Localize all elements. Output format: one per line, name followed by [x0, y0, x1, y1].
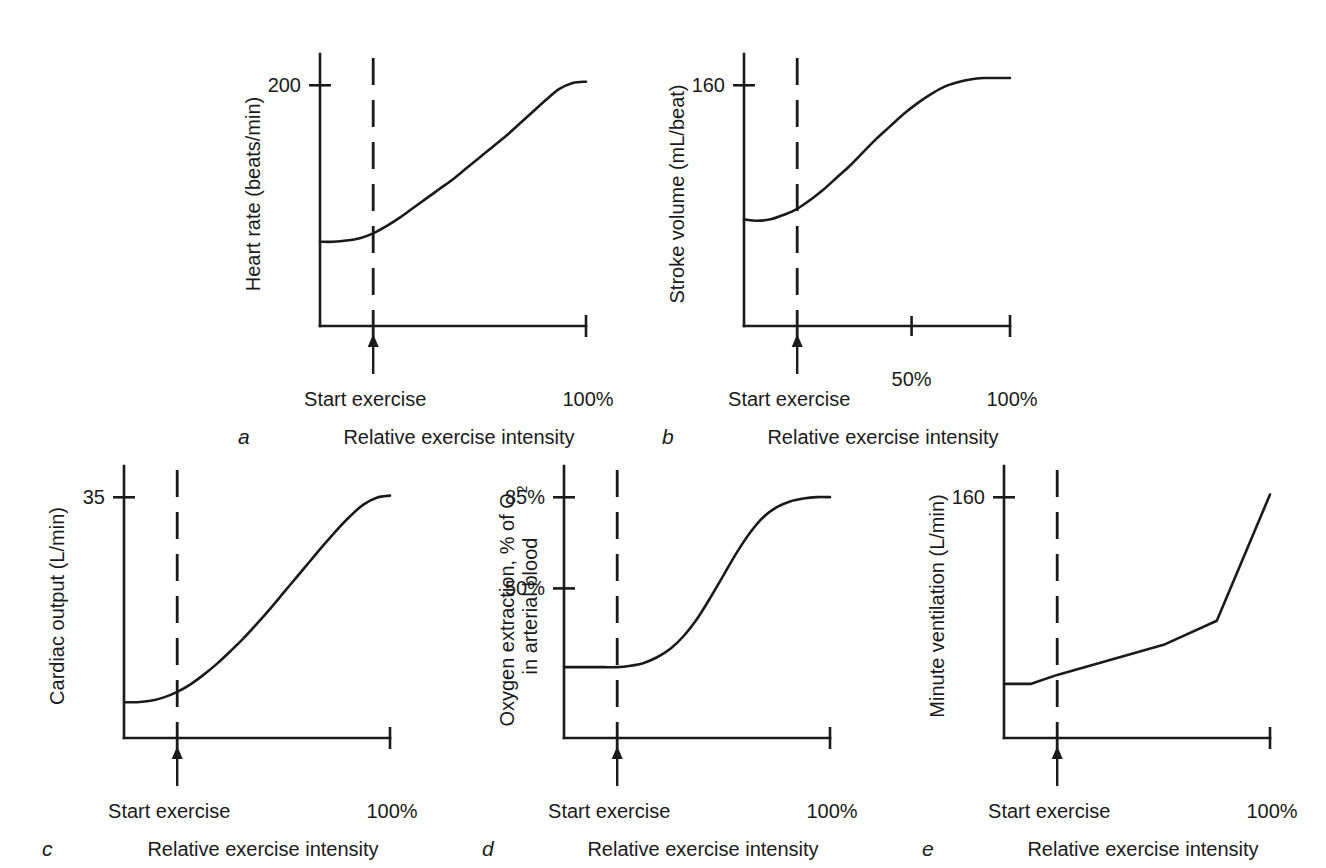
y-axis-tick-label: 160 [952, 486, 985, 508]
x-axis-end-label: 100% [366, 800, 417, 822]
y-axis-tick-label: 160 [692, 74, 725, 96]
figure-exercise-physiology-responses: 200Start exercise100%Heart rate (beats/m… [0, 0, 1326, 868]
y-axis-label: Stroke volume (mL/beat) [666, 85, 688, 304]
y-axis-label: Cardiac output (L/min) [46, 507, 68, 705]
chart-panel-c: 35Start exercise100%Cardiac output (L/mi… [0, 434, 420, 834]
chart-panel-a: 200Start exercise100%Heart rate (beats/m… [196, 22, 616, 422]
x-axis-label: Relative exercise intensity [147, 838, 378, 860]
start-exercise-label: Start exercise [304, 388, 426, 410]
y-axis-tick-label: 35 [83, 486, 105, 508]
start-exercise-arrow-icon [612, 746, 623, 786]
data-curve [564, 497, 830, 667]
data-curve [124, 496, 390, 703]
x-axis-end-label: 100% [562, 388, 613, 410]
start-exercise-label: Start exercise [728, 388, 850, 410]
data-curve [320, 82, 586, 242]
panel-letter: e [922, 837, 934, 860]
start-exercise-arrow-icon [1052, 746, 1063, 786]
x-axis-label: Relative exercise intensity [1027, 838, 1258, 860]
data-curve [1004, 495, 1270, 684]
data-curve [744, 78, 1010, 221]
x-axis-mid-label: 50% [892, 368, 932, 390]
y-axis-label: Heart rate (beats/min) [242, 97, 264, 292]
x-axis-end-label: 100% [806, 800, 857, 822]
chart-panel-e: 160Start exercise100%Minute ventilation … [880, 434, 1300, 834]
y-axis-tick-label: 200 [268, 74, 301, 96]
start-exercise-arrow-icon [792, 334, 803, 374]
y-axis-label-line2: in arterial blood [519, 538, 541, 675]
start-exercise-label: Start exercise [548, 800, 670, 822]
x-axis-end-label: 100% [986, 388, 1037, 410]
x-axis-end-label: 100% [1246, 800, 1297, 822]
y-axis-label: Minute ventilation (L/min) [926, 494, 948, 717]
start-exercise-arrow-icon [172, 746, 183, 786]
start-exercise-arrow-icon [368, 334, 379, 374]
x-axis-label: Relative exercise intensity [587, 838, 818, 860]
start-exercise-label: Start exercise [108, 800, 230, 822]
panel-letter: c [42, 837, 53, 860]
panel-letter: d [482, 837, 495, 860]
start-exercise-label: Start exercise [988, 800, 1110, 822]
chart-panel-b: 16050%Start exercise100%Stroke volume (m… [620, 22, 1040, 422]
chart-panel-d: 85%50%Start exercise100%Oxygen extractio… [440, 434, 860, 834]
